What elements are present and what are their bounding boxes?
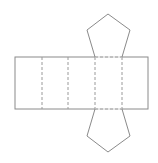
lateral-faces-rectangle: [15, 57, 148, 109]
bottom-pentagon-face: [87, 109, 130, 152]
top-pentagon-face: [87, 14, 130, 57]
pentagonal-prism-net: [0, 0, 158, 163]
fold-lines: [42, 57, 122, 109]
